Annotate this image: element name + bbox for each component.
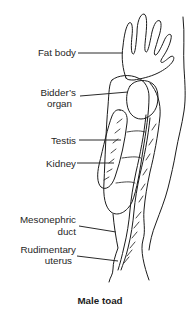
mesonephric-duct-leader-line (79, 226, 116, 232)
rudimentary-uterus-leader-line (77, 256, 118, 261)
mesonephric-duct-label-line2: duct (57, 226, 76, 237)
bidders-organ-label-line1: Bidder’s (40, 87, 76, 98)
male-toad-urogenital-diagram: Fat body Bidder’s organ Testis Kidney Me… (0, 0, 195, 312)
bottom-duct-end (109, 214, 118, 282)
fat-body-shape (122, 14, 174, 80)
kidney-shape (98, 110, 128, 189)
rudimentary-uterus-label-line2: uterus (45, 255, 72, 266)
testis-label: Testis (51, 135, 76, 146)
kidney-label: Kidney (46, 158, 76, 169)
bidders-organ-leader-line (80, 92, 128, 96)
bidders-organ-label-line2: organ (47, 98, 72, 109)
collecting-tubule-lines (116, 131, 145, 183)
figure-caption: Male toad (77, 295, 122, 306)
fat-body-label: Fat body (38, 47, 76, 58)
mesonephric-duct-label-line1: Mesonephric (20, 214, 76, 225)
rudimentary-uterus-label-line1: Rudimentary (20, 244, 76, 255)
bidders-organ-shape (127, 80, 158, 119)
outer-membrane-line (142, 83, 160, 280)
uterus-hatching (124, 124, 156, 263)
